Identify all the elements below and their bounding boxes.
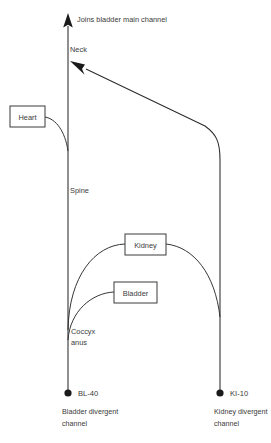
heart-connector-curve [45,117,68,151]
ki10-caption-line1: Kidney divergent [214,407,268,416]
bl40-point-code: BL-40 [78,389,98,398]
bladder-box-label: Bladder [123,289,149,298]
bl40-endpoint-dot [64,389,71,396]
up-arrowhead-icon [63,13,73,28]
joins-bladder-main-channel-label: Joins bladder main channel [77,15,167,24]
diagram-canvas: Heart Kidney Bladder Joins bladder main … [0,0,271,443]
anus-label: anus [71,338,87,347]
kidney-channel-arrowhead-icon [70,61,85,75]
ki10-point-code: KI-10 [230,389,248,398]
neck-label: Neck [70,45,87,54]
ki10-endpoint-dot [216,389,223,396]
spine-label: Spine [70,186,89,195]
bl40-caption-line1: Bladder divergent [62,407,118,416]
kidney-arc-right [166,244,220,317]
kidney-channel-line [86,69,220,392]
kidney-box-label: Kidney [134,241,157,250]
coccyx-label: Coccyx [71,327,96,336]
divergent-channel-diagram: Heart Kidney Bladder Joins bladder main … [0,0,271,443]
ki10-caption-line2: channel [214,419,240,428]
heart-box-label: Heart [18,113,36,122]
bl40-caption-line2: channel [62,419,88,428]
